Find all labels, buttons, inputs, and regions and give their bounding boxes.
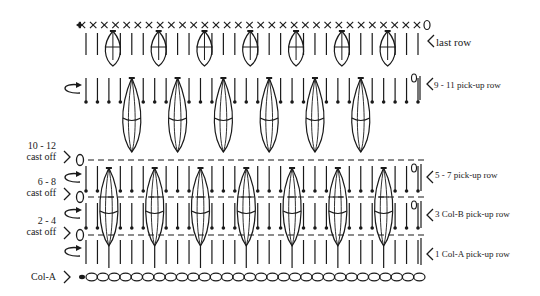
row-label: 1 Col-A pick-up row bbox=[435, 249, 510, 259]
arrow-head-icon bbox=[76, 171, 82, 177]
pointer-right-icon bbox=[64, 151, 70, 163]
pointer-right-icon bbox=[64, 188, 70, 200]
cluster-inner bbox=[357, 78, 364, 152]
slip-stitch-icon bbox=[290, 100, 294, 104]
slip-stitch-icon bbox=[405, 189, 409, 193]
tall-cluster-icon bbox=[146, 168, 164, 246]
chain-stitch-icon bbox=[120, 273, 131, 281]
slip-stitch-icon bbox=[130, 226, 134, 230]
chain-stitch-icon bbox=[414, 273, 425, 281]
label-line-2: cast off bbox=[8, 226, 56, 237]
cluster-bar bbox=[283, 211, 301, 214]
chain-loop-icon bbox=[77, 230, 84, 241]
arrow-head-icon bbox=[76, 207, 82, 213]
cluster-bar bbox=[146, 211, 164, 214]
slip-stitch-icon bbox=[244, 100, 248, 104]
slip-stitch-icon bbox=[79, 275, 85, 279]
slip-stitch-icon bbox=[302, 226, 306, 230]
chain-stitch-icon bbox=[188, 273, 199, 281]
cluster-inner bbox=[128, 78, 135, 152]
slip-stitch-icon bbox=[405, 226, 409, 230]
cluster-inner bbox=[243, 168, 250, 246]
slip-stitch-icon bbox=[405, 100, 409, 104]
slip-stitch-icon bbox=[325, 189, 329, 193]
row-label: 9 - 11 pick-up row bbox=[434, 80, 501, 90]
slip-stitch-icon bbox=[119, 226, 123, 230]
chain-stitch-icon bbox=[323, 273, 334, 281]
cluster-bar bbox=[123, 118, 141, 121]
cluster-inner bbox=[220, 78, 227, 152]
slip-stitch-icon bbox=[279, 189, 283, 193]
chain-stitch-icon bbox=[380, 273, 391, 281]
tall-cluster-icon bbox=[283, 168, 301, 246]
slip-stitch-icon bbox=[164, 100, 168, 104]
chain-stitch-icon bbox=[402, 273, 413, 281]
slip-stitch-icon bbox=[96, 226, 100, 230]
chain-stitch-icon bbox=[143, 273, 154, 281]
slip-stitch-icon bbox=[141, 100, 145, 104]
slip-stitch-icon bbox=[141, 226, 145, 230]
chain-loop-icon bbox=[424, 21, 430, 30]
arrow-head-icon bbox=[76, 245, 82, 251]
cast-off-label: Col-A bbox=[8, 271, 56, 282]
slip-stitch-icon bbox=[359, 226, 363, 230]
label-line-1: 6 - 8 bbox=[8, 176, 56, 187]
slip-stitch-icon bbox=[164, 189, 168, 193]
slip-stitch-icon bbox=[119, 100, 123, 104]
arrow-head-icon bbox=[76, 82, 82, 88]
slip-stitch-icon bbox=[233, 189, 237, 193]
label-line-1: Col-A bbox=[8, 271, 56, 282]
slip-stitch-icon bbox=[164, 226, 168, 230]
slip-stitch-icon bbox=[256, 100, 260, 104]
slip-stitch-icon bbox=[313, 226, 317, 230]
slip-stitch-icon bbox=[393, 100, 397, 104]
tall-cluster-icon bbox=[352, 78, 370, 152]
chain-stitch-icon bbox=[267, 273, 278, 281]
slip-stitch-icon bbox=[199, 100, 203, 104]
slip-stitch-icon bbox=[84, 226, 88, 230]
label-line-1: 2 - 4 bbox=[8, 215, 56, 226]
slip-stitch-icon bbox=[141, 189, 145, 193]
chain-stitch-icon bbox=[165, 273, 176, 281]
slip-stitch-icon bbox=[370, 189, 374, 193]
slip-stitch-icon bbox=[210, 226, 214, 230]
slip-stitch-icon bbox=[119, 189, 123, 193]
cluster-bar bbox=[375, 211, 393, 214]
row-label: 3 Col-B pick-up row bbox=[435, 209, 510, 219]
slip-stitch-icon bbox=[176, 189, 180, 193]
tall-cluster-icon bbox=[260, 78, 278, 152]
cluster-inner bbox=[197, 168, 204, 246]
tall-cluster-icon bbox=[237, 168, 255, 246]
slip-stitch-icon bbox=[153, 100, 157, 104]
chain-stitch-icon bbox=[357, 273, 368, 281]
chain-loop-icon bbox=[77, 192, 84, 203]
pointer-left-icon bbox=[427, 248, 433, 260]
slip-stitch-icon bbox=[325, 226, 329, 230]
slip-stitch-icon bbox=[210, 100, 214, 104]
pointer-left-icon bbox=[427, 209, 433, 221]
slip-stitch-icon bbox=[279, 100, 283, 104]
cluster-inner bbox=[380, 168, 387, 246]
cluster-inner bbox=[266, 78, 273, 152]
cluster-inner bbox=[174, 78, 181, 152]
pointer-left-icon bbox=[427, 78, 433, 90]
chain-stitch-icon bbox=[346, 273, 357, 281]
slip-stitch-icon bbox=[370, 100, 374, 104]
chain-stitch-icon bbox=[97, 273, 108, 281]
chain-stitch-icon bbox=[109, 273, 120, 281]
slip-stitch-icon bbox=[325, 100, 329, 104]
chain-loop-icon bbox=[412, 201, 417, 209]
chain-stitch-icon bbox=[131, 273, 142, 281]
chain-stitch-icon bbox=[244, 273, 255, 281]
slip-stitch-icon bbox=[96, 100, 100, 104]
tall-cluster-icon bbox=[329, 168, 347, 246]
slip-stitch-icon bbox=[348, 189, 352, 193]
cast-off-label: 2 - 4cast off bbox=[8, 215, 56, 237]
chain-stitch-icon bbox=[301, 273, 312, 281]
slip-stitch-icon bbox=[302, 100, 306, 104]
chain-stitch-icon bbox=[222, 273, 233, 281]
slip-stitch-icon bbox=[176, 226, 180, 230]
cluster-bar bbox=[306, 118, 324, 121]
slip-stitch-icon bbox=[256, 189, 260, 193]
tall-cluster-icon bbox=[306, 78, 324, 152]
